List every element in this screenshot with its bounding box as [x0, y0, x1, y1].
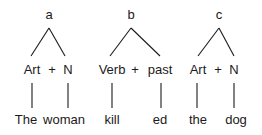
tree-b-node-verb: Verb	[99, 63, 126, 77]
tree-c-leaf-the: the	[189, 113, 207, 127]
tree-a-leaf-the: The	[15, 113, 37, 127]
tree-b-leaf-ed: ed	[153, 113, 167, 127]
tree-b-plus: +	[131, 63, 139, 77]
tree-b-leaf-kill: kill	[104, 113, 119, 127]
tree-c-plus: +	[214, 63, 222, 77]
tree-c-leaf-dog: dog	[225, 113, 247, 127]
tree-c-node-n: N	[229, 63, 238, 77]
tree-c-root: c	[216, 8, 223, 22]
tree-a-node-n: N	[63, 63, 72, 77]
tree-a-node-art: Art	[24, 63, 41, 77]
tree-a-root: a	[45, 8, 52, 22]
syntax-tree-diagram: a Art + N The woman b Verb + past kill e…	[0, 0, 262, 135]
tree-c-node-art: Art	[190, 63, 207, 77]
tree-b-root: b	[127, 8, 134, 22]
tree-b-node-past: past	[148, 63, 173, 77]
tree-a-leaf-woman: woman	[43, 113, 85, 127]
tree-a-plus: +	[48, 63, 56, 77]
